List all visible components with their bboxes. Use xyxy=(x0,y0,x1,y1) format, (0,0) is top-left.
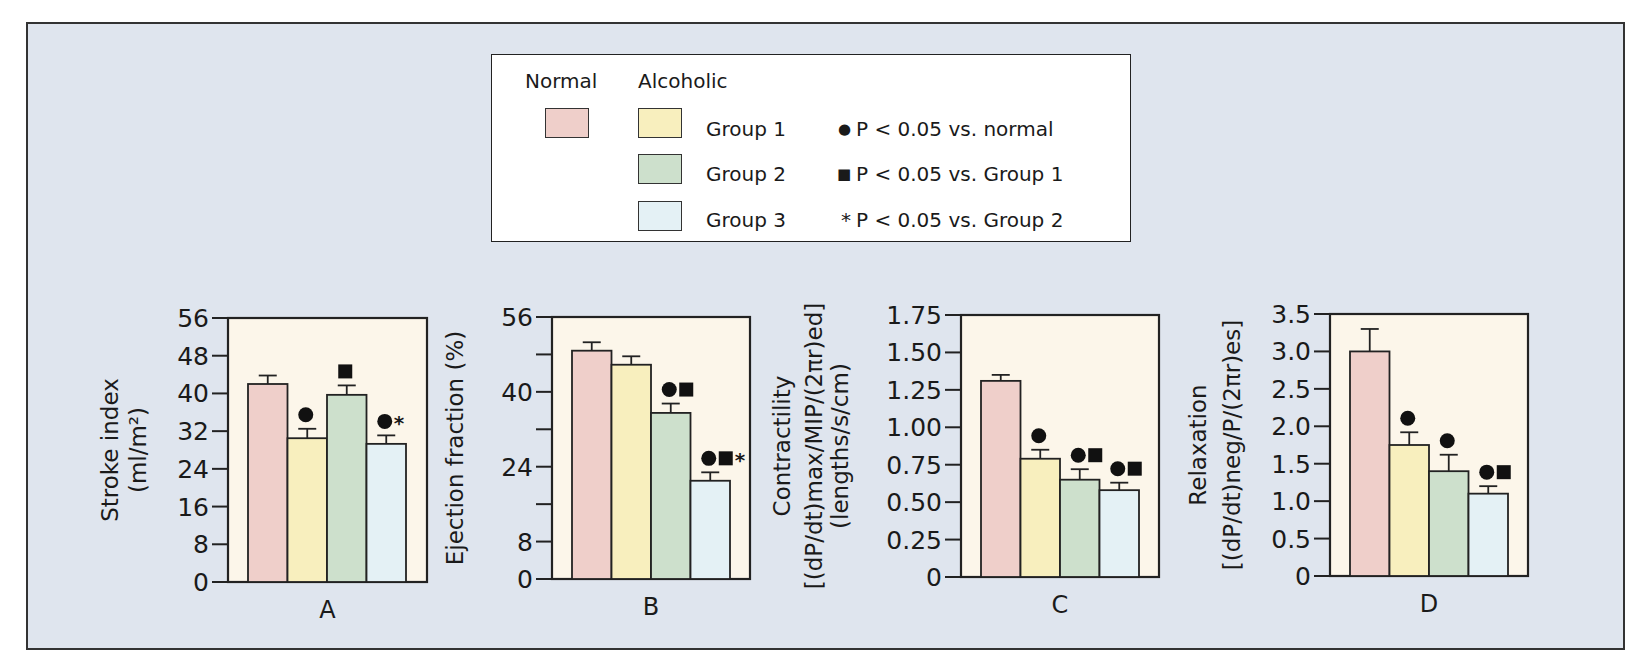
y-tick-label: 8 xyxy=(517,528,533,557)
y-tick-label: 2.5 xyxy=(1271,375,1311,404)
y-tick-label: 0.50 xyxy=(886,488,942,517)
y-tick-label: 24 xyxy=(501,453,533,482)
bar-group1 xyxy=(288,438,328,582)
bar-group1 xyxy=(1021,459,1061,577)
y-axis-label: [(dP/dt)neg/P/(2πr)es] xyxy=(1219,320,1245,570)
y-tick-label: 0 xyxy=(1295,562,1311,591)
y-tick-label: 8 xyxy=(193,530,209,559)
y-tick-label: 0 xyxy=(517,565,533,594)
y-tick-label: 40 xyxy=(177,379,209,408)
y-axis-label: Stroke index xyxy=(97,378,123,522)
y-tick-label: 0 xyxy=(926,563,942,592)
y-tick-label: 0.25 xyxy=(886,526,942,555)
y-tick-label: 1.00 xyxy=(886,413,942,442)
chart-panel-a: 08162432404856*AStroke index(ml/m²) xyxy=(97,304,427,624)
x-axis-label: C xyxy=(1052,591,1069,619)
y-tick-label: 56 xyxy=(501,303,533,332)
square-marker-icon xyxy=(1497,465,1511,479)
bar-group1 xyxy=(1390,445,1430,576)
bar-group2 xyxy=(327,395,367,582)
bar-normal xyxy=(981,381,1021,577)
circle-marker-icon xyxy=(1400,411,1415,426)
y-tick-label: 24 xyxy=(177,455,209,484)
bar-group2 xyxy=(1060,480,1100,577)
x-axis-label: D xyxy=(1420,590,1438,618)
y-tick-label: 1.0 xyxy=(1271,487,1311,516)
square-marker-icon xyxy=(1088,448,1102,462)
y-tick-label: 48 xyxy=(177,342,209,371)
bar-group3 xyxy=(691,481,731,579)
y-axis-label: Contractility xyxy=(769,376,795,517)
circle-marker-icon xyxy=(1110,461,1125,476)
square-marker-icon xyxy=(1128,462,1142,476)
bar-normal xyxy=(248,384,288,582)
y-tick-label: 0.5 xyxy=(1271,525,1311,554)
y-tick-label: 3.5 xyxy=(1271,300,1311,329)
bar-group2 xyxy=(651,413,691,579)
asterisk-marker-icon: * xyxy=(735,448,746,472)
y-tick-label: 32 xyxy=(177,417,209,446)
circle-marker-icon xyxy=(1479,465,1494,480)
square-marker-icon xyxy=(719,451,733,465)
circle-marker-icon xyxy=(298,407,313,422)
y-tick-label: 16 xyxy=(177,493,209,522)
circle-marker-icon xyxy=(1071,448,1086,463)
bar-group3 xyxy=(1469,494,1509,576)
x-axis-label: B xyxy=(643,593,659,621)
bar-normal xyxy=(572,351,612,579)
bar-charts: 08162432404856*AStroke index(ml/m²)08244… xyxy=(0,0,1641,667)
asterisk-marker-icon: * xyxy=(394,411,405,435)
y-tick-label: 2.0 xyxy=(1271,412,1311,441)
square-marker-icon xyxy=(338,364,352,378)
y-tick-label: 0 xyxy=(193,568,209,597)
y-tick-label: 0.75 xyxy=(886,451,942,480)
y-tick-label: 56 xyxy=(177,304,209,333)
chart-panel-d: 00.51.01.52.02.53.03.5DRelaxation[(dP/dt… xyxy=(1185,300,1528,618)
y-tick-label: 3.0 xyxy=(1271,337,1311,366)
bar-normal xyxy=(1350,351,1390,576)
square-marker-icon xyxy=(679,383,693,397)
chart-panel-b: 08244056*BEjection fraction (%) xyxy=(442,303,750,621)
y-tick-label: 1.50 xyxy=(886,338,942,367)
y-tick-label: 1.5 xyxy=(1271,450,1311,479)
y-axis-label: Relaxation xyxy=(1185,384,1211,505)
circle-marker-icon xyxy=(377,414,392,429)
bar-group1 xyxy=(612,365,652,579)
circle-marker-icon xyxy=(1440,433,1455,448)
bar-group2 xyxy=(1429,471,1469,576)
y-axis-label: Ejection fraction (%) xyxy=(442,331,468,566)
y-tick-label: 1.75 xyxy=(886,301,942,330)
chart-panel-c: 00.250.500.751.001.251.501.75CContractil… xyxy=(769,301,1159,619)
bar-group3 xyxy=(367,444,407,582)
circle-marker-icon xyxy=(701,451,716,466)
y-tick-label: 1.25 xyxy=(886,376,942,405)
y-axis-label: [(dP/dt)max/MIP/(2πr)ed] xyxy=(801,303,827,589)
x-axis-label: A xyxy=(319,596,336,624)
circle-marker-icon xyxy=(662,382,677,397)
y-axis-label: (lengths/s/cm) xyxy=(827,363,853,529)
bar-group3 xyxy=(1100,490,1140,577)
y-axis-label: (ml/m²) xyxy=(125,407,151,493)
circle-marker-icon xyxy=(1031,428,1046,443)
y-tick-label: 40 xyxy=(501,378,533,407)
